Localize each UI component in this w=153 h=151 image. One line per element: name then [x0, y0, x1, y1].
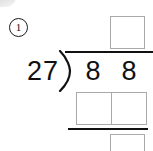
division-bracket-icon: [58, 50, 70, 90]
corner-artifact: [0, 0, 16, 7]
divisor-value: 27: [21, 57, 59, 85]
dividend-digit-ones: 8: [112, 57, 146, 85]
long-division-worksheet: 1 27 8 8: [0, 0, 153, 151]
dividend-digit-tens: 8: [76, 57, 110, 85]
quotient-answer-box[interactable]: [110, 16, 145, 49]
subtraction-rule: [68, 128, 148, 130]
problem-number-badge: 1: [9, 18, 28, 37]
partial-product-box-right[interactable]: [111, 92, 147, 125]
remainder-answer-box[interactable]: [110, 134, 145, 151]
division-overbar: [65, 51, 153, 53]
partial-product-box-left[interactable]: [76, 92, 112, 125]
